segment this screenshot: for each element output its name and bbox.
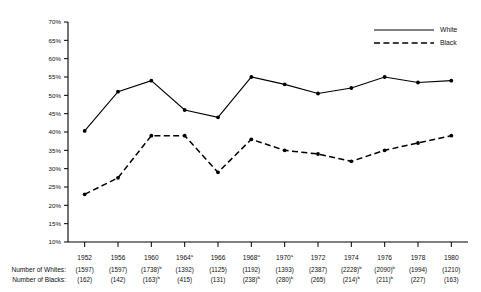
legend-label-white: White: [440, 26, 458, 33]
x-tick-label: 1976: [377, 254, 392, 261]
y-tick-label: 60%: [49, 55, 62, 62]
x-tick-label: 1974: [344, 254, 359, 261]
cell-whites: (1994): [409, 266, 427, 274]
data-point-black: [349, 159, 353, 163]
chart-series-group: [83, 75, 453, 196]
series-markers-black: [83, 134, 453, 196]
y-tick-label: 55%: [49, 73, 62, 80]
y-tick-label: 35%: [49, 147, 62, 154]
y-tick-label: 10%: [49, 238, 62, 245]
chart-container: 10%15%20%25%30%35%40%45%50%55%60%65%70% …: [0, 0, 481, 292]
x-tick-label: 1952: [77, 254, 92, 261]
data-point-black: [83, 192, 87, 196]
cell-whites: (1738)b: [141, 265, 162, 274]
line-chart: 10%15%20%25%30%35%40%45%50%55%60%65%70% …: [0, 0, 481, 292]
series-markers-white: [83, 75, 453, 133]
data-point-black: [249, 137, 253, 141]
row-label-blacks: Number of Blacks:: [12, 276, 66, 283]
y-tick-label: 20%: [49, 202, 62, 209]
cell-blacks: (214)b: [343, 275, 361, 284]
cell-whites: (1597): [76, 266, 94, 274]
cell-blacks: (211)b: [376, 275, 393, 284]
x-tick-label: 1972: [311, 254, 326, 261]
data-point-black: [383, 148, 387, 152]
y-axis-ticks: [64, 22, 68, 242]
data-point-black: [149, 134, 153, 138]
chart-legend: White Black: [374, 26, 458, 46]
legend-label-black: Black: [440, 39, 457, 46]
x-axis-ticks: [85, 242, 452, 247]
counts-table-cells: (1597)(162)(1597)(142)(1738)b(163)b(1392…: [76, 265, 461, 284]
row-label-whites: Number of Whites:: [11, 266, 66, 273]
x-tick-label: 1968a: [243, 253, 261, 261]
cell-blacks: (265): [311, 276, 326, 284]
x-axis-tick-labels: 1952195619601964a19661968a1970a197219741…: [77, 253, 459, 261]
data-point-black: [283, 148, 287, 152]
data-point-black: [449, 134, 453, 138]
data-point-black: [183, 134, 187, 138]
x-tick-label: 1978: [411, 254, 426, 261]
counts-table: Number of Whites: Number of Blacks: (159…: [11, 265, 460, 284]
x-tick-label: 1966: [211, 254, 226, 261]
cell-whites: (2228)b: [341, 265, 362, 274]
y-tick-label: 50%: [49, 92, 62, 99]
cell-blacks: (238)b: [243, 275, 261, 284]
y-tick-label: 25%: [49, 183, 62, 190]
data-point-white: [416, 81, 420, 85]
series-line-white: [85, 77, 452, 131]
series-line-black: [85, 136, 452, 195]
cell-whites: (2387): [309, 266, 327, 274]
cell-whites: (1210): [442, 266, 460, 274]
y-tick-label: 65%: [49, 37, 62, 44]
data-point-white: [183, 108, 187, 112]
y-tick-label: 30%: [49, 165, 62, 172]
x-tick-label: 1956: [111, 254, 126, 261]
cell-whites: (1192): [242, 266, 260, 274]
data-point-white: [249, 75, 253, 79]
data-point-white: [383, 75, 387, 79]
x-tick-label: 1960: [144, 254, 159, 261]
cell-blacks: (142): [111, 276, 126, 284]
y-axis: 10%15%20%25%30%35%40%45%50%55%60%65%70%: [49, 18, 68, 245]
data-point-black: [116, 176, 120, 180]
cell-blacks: (163)b: [143, 275, 161, 284]
data-point-white: [216, 115, 220, 119]
y-tick-label: 15%: [49, 220, 62, 227]
data-point-black: [416, 141, 420, 145]
x-tick-label: 1970a: [276, 253, 294, 261]
cell-blacks: (162): [77, 276, 92, 284]
data-point-black: [216, 170, 220, 174]
data-point-black: [316, 152, 320, 156]
data-point-white: [316, 92, 320, 96]
y-tick-label: 40%: [49, 128, 62, 135]
cell-blacks: (280)b: [276, 275, 294, 284]
x-tick-label: 1980: [444, 254, 459, 261]
cell-whites: (1392): [176, 266, 194, 274]
cell-blacks: (163): [444, 276, 459, 284]
data-point-white: [349, 86, 353, 90]
x-axis: [68, 242, 468, 247]
data-point-white: [116, 90, 120, 94]
data-point-white: [283, 82, 287, 86]
cell-blacks: (415): [177, 276, 192, 284]
cell-whites: (1125): [209, 266, 227, 274]
data-point-white: [149, 79, 153, 83]
data-point-white: [83, 129, 87, 133]
cell-whites: (2090)b: [374, 265, 395, 274]
y-axis-tick-labels: 10%15%20%25%30%35%40%45%50%55%60%65%70%: [49, 18, 62, 245]
cell-whites: (1393): [276, 266, 294, 274]
cell-blacks: (227): [411, 276, 426, 284]
cell-blacks: (131): [211, 276, 226, 284]
cell-whites: (1597): [109, 266, 127, 274]
data-point-white: [449, 79, 453, 83]
x-tick-label: 1964a: [176, 253, 194, 261]
y-tick-label: 70%: [49, 18, 62, 25]
y-tick-label: 45%: [49, 110, 62, 117]
